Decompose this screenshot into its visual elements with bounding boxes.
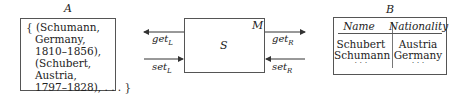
- set-a-line: 1810–1856),: [26, 45, 115, 57]
- state-label: S: [220, 39, 228, 52]
- header-name: Name: [334, 20, 384, 32]
- module-label: M: [252, 19, 263, 32]
- get-left-label: getL: [152, 33, 173, 47]
- set-a-line: Austria,: [26, 69, 115, 81]
- set-right-label: setR: [272, 61, 292, 75]
- set-a-line: { (Schumann,: [26, 21, 115, 33]
- cell-nationality: · · ·: [390, 58, 446, 67]
- set-a-line: Germany,: [26, 33, 115, 45]
- table-row: · · · · · ·: [334, 58, 446, 70]
- set-a-box: { (Schumann, Germany, 1810–1856), (Schub…: [20, 18, 116, 91]
- get-right-label: getR: [272, 33, 294, 47]
- set-a-line: 1797–1828), . . . }: [26, 81, 115, 93]
- set-a-line: (Schubert,: [26, 57, 115, 69]
- table-b: Name Nationality Schubert Austria Schuma…: [333, 17, 447, 75]
- set-left-label: setL: [152, 61, 172, 75]
- header-nationality: Nationality: [389, 20, 441, 32]
- set-a-label: A: [64, 2, 72, 15]
- table-b-label: B: [386, 3, 394, 16]
- table-header: Name Nationality: [338, 20, 442, 34]
- cell-name: · · ·: [334, 58, 388, 67]
